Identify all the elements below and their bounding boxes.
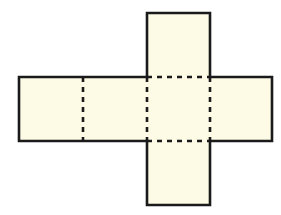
face-right	[210, 77, 272, 141]
face-center-left	[83, 77, 147, 141]
cube-net-diagram	[0, 0, 281, 215]
face-bottom	[147, 141, 210, 205]
face-top	[147, 13, 210, 77]
cube-faces	[19, 13, 272, 205]
face-center	[147, 77, 210, 141]
face-left	[19, 77, 83, 141]
